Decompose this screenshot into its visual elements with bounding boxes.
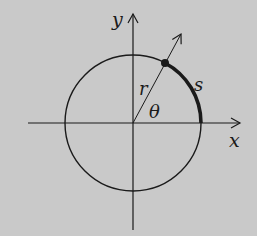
point-on-circle — [161, 59, 169, 67]
radius-label: r — [139, 78, 149, 99]
angle-label: θ — [149, 101, 160, 122]
arc-label: s — [194, 74, 203, 95]
y-axis-label: y — [111, 8, 123, 30]
unit-circle-diagram: y x r θ s — [0, 0, 257, 236]
x-axis-label: x — [229, 129, 240, 151]
